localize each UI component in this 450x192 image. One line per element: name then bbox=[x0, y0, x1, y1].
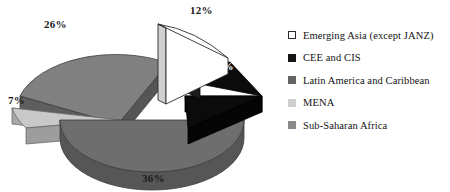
legend-swatch-cee-and-cis bbox=[288, 54, 296, 62]
pie-label-mena: 7% bbox=[8, 94, 25, 106]
legend-label-mena: MENA bbox=[303, 97, 334, 108]
pie-slice-side-emerging-asia bbox=[158, 24, 166, 104]
legend-label-emerging-asia: Emerging Asia (except JANZ) bbox=[303, 30, 434, 41]
pie-label-sub-saharan-africa: 26% bbox=[44, 18, 67, 30]
legend-item-latin-america[interactable]: Latin America and Caribbean bbox=[288, 69, 450, 92]
legend-label-latin-america: Latin America and Caribbean bbox=[303, 75, 430, 86]
legend-swatch-latin-america bbox=[288, 76, 296, 84]
pie-label-latin-america: 36% bbox=[142, 172, 165, 184]
legend-label-cee-and-cis: CEE and CIS bbox=[303, 52, 361, 63]
legend-item-emerging-asia[interactable]: Emerging Asia (except JANZ) bbox=[288, 24, 450, 47]
pie-chart-plot: 12% 19% 36% 7% 26% bbox=[0, 0, 270, 192]
legend-item-sub-saharan-africa[interactable]: Sub-Saharan Africa bbox=[288, 114, 450, 137]
legend-swatch-mena bbox=[288, 99, 296, 107]
legend-item-cee-and-cis[interactable]: CEE and CIS bbox=[288, 47, 450, 70]
pie-chart-figure: 12% 19% 36% 7% 26% Emerging Asia (except… bbox=[0, 0, 450, 192]
chart-legend: Emerging Asia (except JANZ) CEE and CIS … bbox=[288, 24, 450, 137]
pie-label-cee-and-cis: 19% bbox=[211, 60, 234, 72]
legend-swatch-emerging-asia bbox=[288, 31, 296, 39]
pie-label-emerging-asia: 12% bbox=[190, 4, 213, 16]
pie-chart-svg bbox=[0, 0, 270, 192]
legend-label-sub-saharan-africa: Sub-Saharan Africa bbox=[303, 120, 387, 131]
legend-swatch-sub-saharan-africa bbox=[288, 121, 296, 129]
legend-item-mena[interactable]: MENA bbox=[288, 92, 450, 115]
